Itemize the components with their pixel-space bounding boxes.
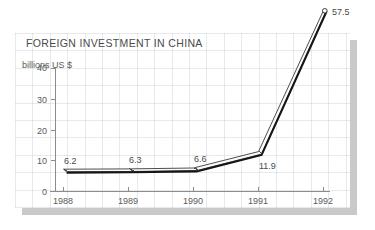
chart-figure: FOREIGN INVESTMENT IN CHINA billions US … [0,0,375,230]
y-axis-unit-caption: billions US $ [22,60,72,70]
chart-title: FOREIGN INVESTMENT IN CHINA [26,37,203,49]
value-label-1992: 57.5 [332,7,350,17]
